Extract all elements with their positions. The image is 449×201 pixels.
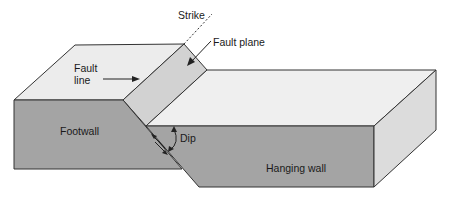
fault-plane-arrow: [191, 41, 211, 62]
fault-plane-label: Fault plane: [213, 36, 265, 48]
fault-diagram: Strike Fault plane Fault line Footwall D…: [0, 0, 449, 201]
fault-line-label-1: Fault: [74, 62, 97, 74]
strike-label: Strike: [178, 9, 205, 21]
footwall-label: Footwall: [60, 125, 99, 137]
fault-line-label-2: line: [74, 74, 91, 86]
hanging-wall-label: Hanging wall: [266, 162, 326, 174]
dip-label: Dip: [180, 132, 196, 144]
